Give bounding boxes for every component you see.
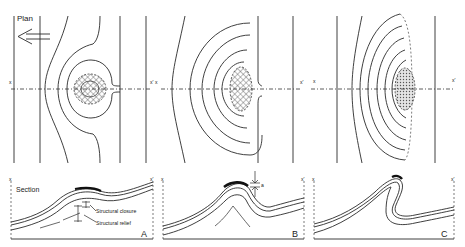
line-end-x: x bbox=[312, 176, 315, 182]
line-end-x: x bbox=[155, 79, 158, 85]
line-end-x-prime: x' bbox=[301, 176, 305, 182]
section-a: x x' Section Structural closure Structur… bbox=[9, 176, 154, 239]
arrow-left-icon bbox=[18, 29, 50, 44]
section-c: x x' C bbox=[312, 176, 455, 239]
plan-map-c: x x' bbox=[311, 14, 456, 163]
plan-title: Plan bbox=[17, 14, 33, 23]
line-end-x-prime: x' bbox=[451, 176, 455, 182]
thickness-label: a bbox=[261, 182, 264, 188]
line-end-x-prime: x' bbox=[150, 79, 154, 85]
oil-accumulation bbox=[224, 182, 248, 187]
line-end-x-prime: x' bbox=[452, 77, 456, 83]
structural-closure-label: Structural closure bbox=[96, 208, 136, 214]
panel-label-a: A bbox=[141, 229, 147, 239]
line-end-x: x bbox=[161, 176, 164, 182]
line-end-x: x bbox=[9, 79, 12, 85]
structural-relief-label: Structural relief bbox=[96, 220, 131, 226]
section-b: x x' a B bbox=[161, 171, 305, 239]
line-end-x-prime: x' bbox=[300, 79, 304, 85]
geologic-structure-figure: Plan x x' x x' bbox=[0, 0, 465, 247]
panel-label-c: C bbox=[441, 229, 448, 239]
line-end-x: x bbox=[313, 78, 316, 84]
section-title: Section bbox=[16, 186, 39, 193]
panel-label-b: B bbox=[292, 229, 298, 239]
line-end-x: x bbox=[9, 176, 12, 182]
plan-map-b: x x' bbox=[155, 16, 304, 163]
line-end-x-prime: x' bbox=[150, 176, 154, 182]
plan-map-a: Plan x x' bbox=[9, 14, 154, 163]
